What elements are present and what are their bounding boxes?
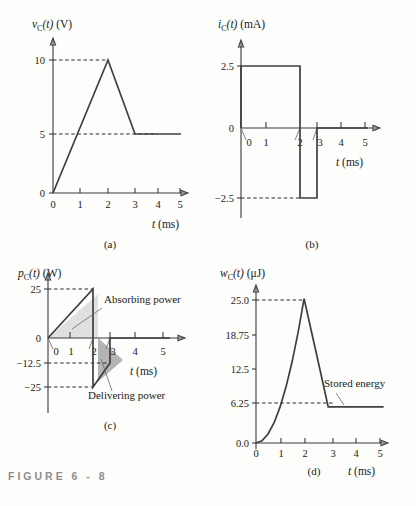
ytick-label-0: 0.0 (236, 438, 249, 449)
xtick-label-0: 0 (53, 346, 58, 357)
annotation-stored-energy: Stored energy (324, 377, 386, 389)
panel-b-current: iC(t) (mA) 2.5 0 −2.5 0 1 2 3 4 (208, 0, 416, 253)
panel-a-voltage: vC(t) (V) 0 5 10 0 1 2 (0, 0, 208, 253)
ytick-label-10: 10 (35, 55, 46, 66)
xtick-label-1: 1 (68, 346, 73, 357)
panel-d-energy: wC(t) (μJ) 25.0 18.75 12.5 6.25 0.0 0 (208, 253, 416, 506)
ytick-label-12p5: 12.5 (231, 364, 249, 375)
panel-d-caption: (d) (308, 465, 321, 478)
ytick-label-0: 0 (229, 123, 234, 134)
ytick-label-2p5: 2.5 (221, 61, 234, 72)
panel-b-xlabel: t (ms) (336, 156, 363, 169)
xtick-label-0: 0 (246, 137, 251, 148)
panel-d-ylabel: wC(t) (μJ) (220, 267, 265, 282)
xtick-label-5: 5 (177, 199, 182, 210)
panel-a-xlabel: t (ms) (152, 218, 179, 231)
panel-a-caption: (a) (104, 238, 117, 251)
leader-0 (48, 338, 53, 349)
panel-c-power: pC(t) (W) 25 0 −12.5 −25 (0, 253, 208, 506)
ytick-label-25: 25.0 (231, 295, 249, 306)
figure-sheet: vC(t) (V) 0 5 10 0 1 2 (0, 0, 416, 506)
ytick-label-18p75: 18.75 (225, 330, 249, 341)
ytick-label-6p25: 6.25 (231, 398, 249, 409)
ytick-label-neg25: −25 (25, 382, 41, 393)
xtick-label-5: 5 (362, 137, 367, 148)
ytick-label-neg2p5: −2.5 (215, 193, 234, 204)
annotation-absorbing-power: Absorbing power (104, 293, 181, 305)
xtick-label-3: 3 (110, 346, 115, 357)
panel-c-xlabel: t (ms) (130, 365, 157, 378)
figure-caption-prefix: FIGURE (8, 470, 66, 482)
xtick-label-1: 1 (263, 137, 268, 148)
panel-a-curve (53, 60, 181, 193)
panel-b-caption: (b) (306, 238, 319, 251)
panel-c-ylabel: pC(t) (W) (17, 267, 62, 282)
ytick-label-neg12p5: −12.5 (17, 358, 41, 369)
xtick-label-3: 3 (330, 448, 335, 459)
xtick-label-4: 4 (155, 199, 161, 210)
xtick-label-5: 5 (160, 346, 165, 357)
ytick-label-0: 0 (40, 188, 45, 199)
panel-a-ylabel: vC(t) (V) (32, 18, 72, 33)
chart-b-svg: iC(t) (mA) 2.5 0 −2.5 0 1 2 3 4 (208, 0, 416, 253)
xtick-label-4: 4 (353, 448, 359, 459)
chart-a-svg: vC(t) (V) 0 5 10 0 1 2 (0, 0, 208, 253)
xtick-label-4: 4 (338, 137, 344, 148)
xtick-label-2: 2 (105, 199, 110, 210)
ytick-label-25: 25 (31, 284, 42, 295)
ytick-label-5: 5 (40, 129, 45, 140)
xtick-label-0: 0 (253, 448, 258, 459)
figure-caption-number: 6 - 8 (72, 470, 108, 482)
xtick-label-3: 3 (317, 137, 322, 148)
leader-stored-energy (336, 393, 344, 405)
xtick-label-4: 4 (132, 346, 138, 357)
xtick-label-3: 3 (132, 199, 137, 210)
chart-d-svg: wC(t) (μJ) 25.0 18.75 12.5 6.25 0.0 0 (208, 253, 416, 506)
panel-b-ylabel: iC(t) (mA) (218, 18, 265, 33)
panel-d-xlabel: t (ms) (348, 465, 375, 478)
ytick-label-0: 0 (36, 333, 41, 344)
xtick-label-0: 0 (50, 199, 55, 210)
xtick-label-2: 2 (302, 448, 307, 459)
xtick-label-1: 1 (278, 448, 283, 459)
chart-c-svg: pC(t) (W) 25 0 −12.5 −25 (0, 253, 208, 506)
panel-c-caption: (c) (104, 419, 117, 432)
xtick-label-1: 1 (77, 199, 82, 210)
figure-caption: FIGURE 6 - 8 (8, 470, 108, 482)
panel-d-curve (256, 299, 384, 443)
annotation-delivering-power: Delivering power (88, 389, 166, 401)
xtick-label-5: 5 (377, 448, 382, 459)
panel-b-curve (241, 66, 368, 198)
leader-0 (241, 128, 246, 140)
